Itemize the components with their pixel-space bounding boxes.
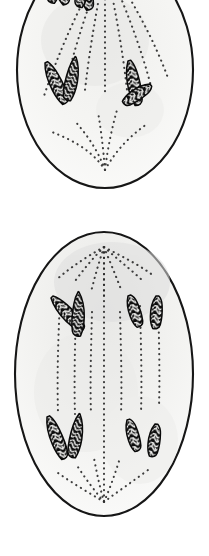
cell-division-figure: Cell division - anaphase / late anaphase…: [0, 0, 209, 556]
upper-cell-panel: [17, 0, 193, 188]
figure-canvas: [0, 0, 209, 556]
lower-cell-panel: [15, 232, 193, 516]
